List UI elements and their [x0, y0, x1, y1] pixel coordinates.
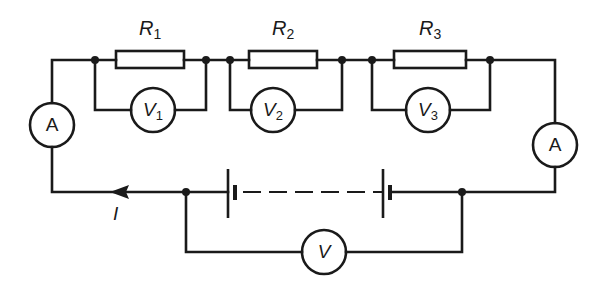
junction-dot — [226, 56, 234, 64]
bottom-wire-left — [52, 147, 228, 192]
label-ammeter-left: A — [32, 115, 72, 134]
bottom-wire-right — [390, 167, 555, 192]
resistor-r3 — [394, 51, 466, 68]
junction-dot — [91, 56, 99, 64]
label-v1: V1 — [133, 100, 173, 122]
label-r2: R2 — [272, 18, 294, 41]
resistor-r1 — [116, 51, 184, 68]
label-current: I — [113, 204, 118, 223]
label-v: V — [304, 242, 344, 261]
junction-dot — [458, 188, 466, 196]
label-r3: R3 — [419, 18, 441, 41]
label-v2: V2 — [253, 100, 293, 122]
label-v3: V3 — [408, 100, 448, 122]
junction-dot — [368, 56, 376, 64]
junction-dot — [338, 56, 346, 64]
circuit-diagram — [0, 0, 600, 290]
label-ammeter-right: A — [535, 135, 575, 154]
junction-dot — [202, 56, 210, 64]
junction-dot — [486, 56, 494, 64]
top-wire — [52, 60, 116, 103]
junction-dot — [182, 188, 190, 196]
label-r1: R1 — [139, 18, 161, 41]
resistor-r2 — [249, 51, 317, 68]
wire-r3-right — [466, 60, 555, 123]
